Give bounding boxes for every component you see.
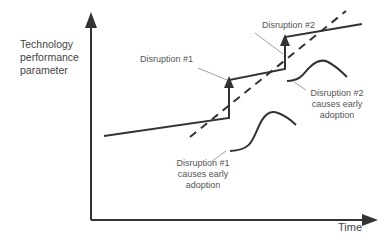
disruption-1-adoption-label: Disruption #1 causes early adoption (168, 158, 238, 191)
leader-d2 (255, 33, 283, 54)
y-axis-label: Technology performance parameter (20, 38, 100, 77)
x-axis-label: Time (338, 222, 362, 233)
adoption-curve-2 (287, 61, 347, 81)
disruption-2-adoption-label: Disruption #2 causes early adoption (302, 88, 372, 121)
disruption-2-label: Disruption #2 (262, 20, 315, 31)
adoption-curve-1 (230, 112, 296, 151)
disruption-1-label: Disruption #1 (140, 54, 193, 65)
diagram-canvas (0, 0, 390, 242)
leader-d1 (198, 68, 227, 80)
